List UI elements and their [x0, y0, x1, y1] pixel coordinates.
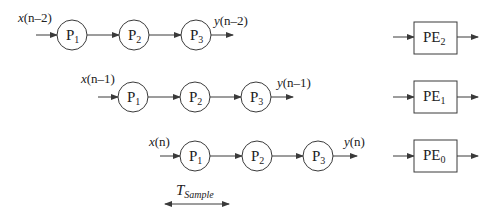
input-label: x(n–1): [80, 71, 115, 86]
sample-period-span: TSample: [165, 182, 229, 204]
input-label: x(n–2): [17, 10, 52, 25]
node-p2: P2: [242, 141, 272, 171]
output-label: y(n–2): [212, 13, 248, 28]
node-p1: P1: [180, 141, 210, 171]
node-p1: P1: [118, 82, 148, 112]
node-p3: P3: [181, 20, 211, 50]
input-label: x(n): [148, 134, 170, 149]
node-p1: P1: [57, 20, 87, 50]
node-p3: P3: [241, 82, 271, 112]
output-label: y(n–1): [275, 75, 311, 90]
output-label: y(n): [342, 134, 365, 149]
node-p2: P2: [180, 82, 210, 112]
sample-period-label: TSample: [176, 182, 214, 200]
processing-element-pe1: PE1: [393, 81, 478, 113]
processing-element-pe2: PE2: [393, 22, 478, 54]
pipeline-row-1: x(n–1) P1 P2 P3 y(n–1) PE1: [80, 71, 478, 113]
pipeline-diagram: x(n–2) P1 P2 P3 y(n–2) PE2 x(n–1): [0, 0, 493, 218]
pipeline-row-2: x(n) P1 P2 P3 y(n) PE0: [148, 134, 478, 172]
node-p2: P2: [119, 20, 149, 50]
node-p3: P3: [303, 141, 333, 171]
processing-element-pe0: PE0: [393, 140, 478, 172]
pipeline-row-0: x(n–2) P1 P2 P3 y(n–2) PE2: [17, 10, 478, 54]
